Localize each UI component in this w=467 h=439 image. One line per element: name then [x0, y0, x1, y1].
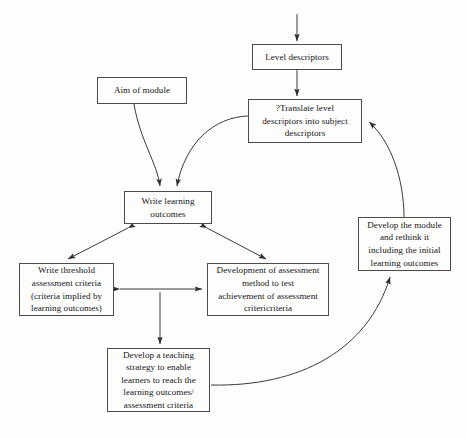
node-write-learning-outcomes-label: Write learning outcomes	[128, 195, 208, 220]
edge-write-outcomes-to-assessment	[207, 228, 266, 259]
node-aim-of-module[interactable]: Aim of module	[97, 77, 187, 104]
node-level-descriptors[interactable]: Level descriptors	[252, 44, 342, 70]
node-translate-level-descriptors[interactable]: ?Translate level descriptors into subjec…	[248, 99, 362, 143]
node-development-of-assessment-label: Development of assessment method to test…	[211, 264, 325, 314]
edge-aim-to-write-outcomes	[134, 104, 160, 186]
node-translate-level-descriptors-label: ?Translate level descriptors into subjec…	[252, 102, 358, 140]
node-develop-the-module[interactable]: Develop the module and rethink it includ…	[358, 217, 451, 271]
edge-translate-to-write-outcomes	[177, 116, 248, 186]
node-development-of-assessment[interactable]: Development of assessment method to test…	[207, 263, 329, 316]
node-develop-teaching-strategy[interactable]: Develop a teaching strategy to enable le…	[107, 348, 210, 412]
edge-write-outcomes-to-threshold	[68, 228, 128, 259]
node-level-descriptors-label: Level descriptors	[256, 51, 338, 64]
edge-develop-module-to-translate	[369, 122, 404, 217]
node-aim-of-module-label: Aim of module	[101, 84, 183, 97]
node-write-threshold-criteria-label: Write threshold assessment criteria (cri…	[23, 264, 110, 314]
node-write-learning-outcomes[interactable]: Write learning outcomes	[124, 191, 212, 224]
node-develop-the-module-label: Develop the module and rethink it includ…	[362, 219, 447, 269]
node-develop-teaching-strategy-label: Develop a teaching strategy to enable le…	[111, 349, 206, 412]
node-write-threshold-criteria[interactable]: Write threshold assessment criteria (cri…	[19, 263, 114, 316]
flowchart-canvas: Level descriptors Aim of module ?Transla…	[0, 0, 467, 439]
